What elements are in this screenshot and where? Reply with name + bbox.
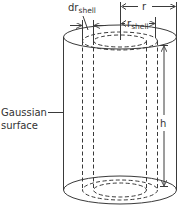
gaussian-surface-label-line2: surface [1, 120, 38, 131]
r-shell-sub: shell [131, 22, 148, 31]
h-dimension: h [160, 46, 168, 187]
dr-shell-dimension: drshell [68, 2, 106, 41]
r-shell-dimension: rshell [122, 17, 156, 38]
h-label: h [160, 118, 166, 129]
gaussian-cylinder [64, 25, 177, 204]
r-shell-label: rshell [127, 18, 149, 31]
gaussian-cylinder-diagram: r rshell drshell h Gaussian surface [0, 0, 187, 211]
bottom-ellipse-shell-inner [94, 183, 147, 197]
gaussian-surface-callout: Gaussian surface [1, 107, 63, 131]
charge-shell [83, 32, 158, 200]
gaussian-surface-label-line1: Gaussian [1, 107, 47, 118]
dr-shell-sub: shell [78, 6, 95, 15]
r-label: r [142, 1, 147, 12]
dr-shell-label: drshell [68, 2, 96, 15]
